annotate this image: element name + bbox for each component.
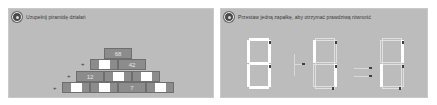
matchstick[interactable] [313, 64, 316, 87]
matchstick[interactable] [334, 64, 337, 87]
pyramid-cell: 42 [118, 59, 146, 70]
blank-input-box[interactable] [155, 83, 166, 92]
exercise-instruction: Przestaw jedną zapałkę, aby otrzymać pra… [238, 14, 371, 20]
matchstick[interactable] [315, 86, 335, 89]
matchstick[interactable] [380, 64, 383, 87]
cell-value: 42 [129, 62, 136, 68]
pyramid-row-4: 7 [62, 82, 174, 93]
matchstick-digit-1 [247, 38, 271, 89]
blank-input-box[interactable] [113, 72, 124, 81]
matchstick[interactable] [334, 40, 337, 63]
blank-input-box[interactable] [99, 83, 110, 92]
exercise-instruction: Uzupełnij piramidę działań [26, 14, 86, 20]
matchstick[interactable] [247, 40, 250, 63]
matchstick[interactable] [247, 64, 250, 87]
pyramid-row-3: 12 [76, 71, 160, 82]
exercise-header: Uzupełnij piramidę działań [12, 12, 86, 22]
matchstick-digit-2 [313, 38, 337, 89]
matchstick-digit-3 [380, 38, 404, 89]
pyramid-input-cell[interactable] [146, 82, 174, 93]
pyramid-exercise-panel: Uzupełnij piramidę działań 68 + 42 + 12 … [8, 8, 214, 98]
blank-input-box[interactable] [141, 72, 152, 81]
pyramid-row-1: 68 [104, 48, 132, 59]
matchstick-exercise-panel: Przestaw jedną zapałkę, aby otrzymać pra… [220, 8, 428, 98]
pyramid-input-cell[interactable] [90, 59, 118, 70]
matchstick[interactable] [401, 64, 404, 87]
equals-matchstick-bottom[interactable] [354, 76, 371, 77]
exercise-header: Przestaw jedną zapałkę, aby otrzymać pra… [224, 12, 371, 22]
plus-operator: + [53, 85, 57, 91]
plus-operator: + [67, 73, 71, 79]
matchstick[interactable] [315, 62, 335, 65]
blank-input-box[interactable] [99, 60, 110, 69]
pyramid-input-cell[interactable] [132, 71, 160, 82]
cell-value: 12 [87, 74, 94, 80]
matchstick[interactable] [249, 38, 269, 41]
matchstick[interactable] [268, 64, 271, 87]
plus-operator: + [81, 61, 85, 67]
numbered-bullet-icon [224, 12, 234, 22]
matchstick[interactable] [313, 40, 316, 63]
matchstick[interactable] [249, 86, 269, 89]
plus-matchstick-horizontal[interactable] [295, 64, 304, 65]
matchstick[interactable] [382, 62, 402, 65]
blank-input-box[interactable] [71, 83, 82, 92]
matchstick[interactable] [380, 40, 383, 63]
cell-value: 68 [115, 51, 122, 57]
pyramid-cell: 12 [76, 71, 104, 82]
matchstick[interactable] [382, 38, 402, 41]
matchstick[interactable] [249, 62, 269, 65]
plus-matchstick-vertical[interactable] [294, 54, 295, 76]
pyramid-input-cell[interactable] [62, 82, 90, 93]
pyramid-input-cell[interactable] [104, 71, 132, 82]
pyramid-cell: 68 [104, 48, 132, 59]
numbered-bullet-icon [12, 12, 22, 22]
matchstick[interactable] [401, 40, 404, 63]
cell-value: 7 [130, 85, 133, 91]
matchstick[interactable] [382, 86, 402, 89]
equals-matchstick-top[interactable] [354, 68, 371, 69]
pyramid-cell: 7 [118, 82, 146, 93]
matchstick[interactable] [268, 40, 271, 63]
matchstick[interactable] [315, 38, 335, 41]
pyramid-row-2: 42 [90, 59, 146, 70]
pyramid-input-cell[interactable] [90, 82, 118, 93]
